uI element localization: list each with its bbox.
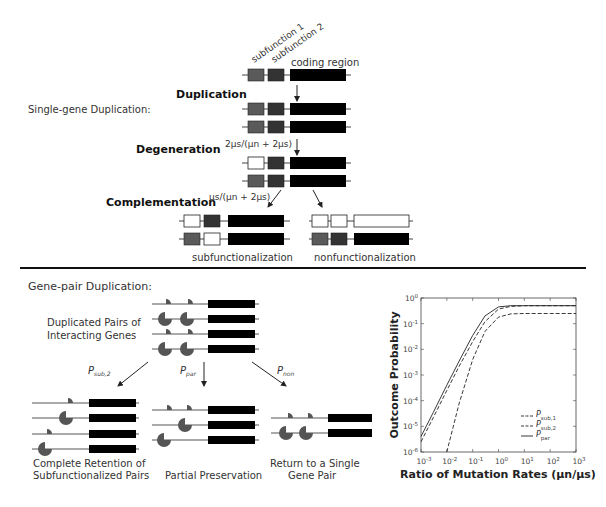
p-non-label: Pnon [277, 365, 295, 377]
tick-label: 102 [547, 456, 560, 466]
figure: Single-gene Duplication: subfunction 1 s… [0, 0, 606, 507]
large-protein-icon [59, 411, 73, 425]
tick-label: 10-2 [403, 344, 418, 354]
y-axis-title: Outcome Probability [388, 311, 401, 438]
subfunction-1-box [248, 69, 264, 81]
p-sub2-label: Psub,2 [88, 365, 111, 377]
small-protein-icon [187, 405, 192, 410]
coding-bar [89, 414, 136, 422]
tick-label: 100 [405, 293, 419, 303]
large-protein-icon [180, 312, 194, 326]
nonfunctionalization-label: nonfunctionalization [314, 252, 416, 263]
complementation-step-label: Complementation [106, 196, 216, 209]
small-protein-icon [188, 329, 193, 334]
source-label-line1: Duplicated Pairs of [47, 317, 141, 328]
large-protein-icon [158, 342, 172, 356]
gene-pair-section: Gene-pair Duplication: Duplicated Pairs … [28, 280, 372, 481]
single-pair-label-line1: Return to a Single [270, 458, 360, 469]
tick-label: 10-1 [403, 319, 418, 329]
tick-label: 10-3 [416, 456, 432, 466]
complete-retention-genes [32, 398, 139, 456]
coding-box [290, 69, 346, 81]
coding-bar [208, 315, 255, 323]
coding-bar [328, 429, 372, 437]
arrow-icon [313, 190, 322, 207]
complete-retention-label-line2: Subfunctionalized Pairs [33, 470, 149, 481]
small-protein-icon [308, 413, 313, 418]
source-label-line2: Interacting Genes [47, 330, 136, 341]
tick-label: 10-4 [403, 396, 419, 406]
tick-label: 10-5 [403, 421, 419, 431]
partial-preservation-genes [152, 405, 259, 447]
small-protein-icon [68, 398, 73, 403]
large-protein-icon [299, 426, 313, 440]
p-par-label: Ppar [180, 365, 197, 378]
large-protein-icon [279, 426, 293, 440]
single-gene-title: Single-gene Duplication: [28, 104, 151, 115]
coding-bar [208, 300, 255, 308]
outcome-probability-chart: 10-310-210-1100101102103 10010-110-210-3… [388, 293, 596, 481]
coding-bar [89, 430, 136, 438]
tick-label: 10-1 [468, 456, 483, 466]
large-protein-icon [38, 442, 52, 456]
small-protein-icon [166, 329, 171, 334]
small-protein-icon [166, 299, 171, 304]
coding-region-label: coding region [291, 57, 359, 68]
large-protein-icon [158, 312, 172, 326]
gene-degenerated-a [242, 157, 351, 169]
tick-label: 10-3 [403, 370, 419, 380]
coding-bar [89, 445, 136, 453]
degeneration-step-label: Degeneration [136, 143, 220, 156]
tick-label: 10-6 [403, 447, 419, 457]
single-gene-pair-genes [271, 413, 372, 440]
small-protein-icon [47, 429, 52, 434]
tick-label: 10-2 [442, 456, 457, 466]
single-gene-section: Single-gene Duplication: subfunction 1 s… [28, 21, 416, 263]
complete-retention-label-line1: Complete Retention of [33, 458, 146, 469]
gene-copy-b [242, 121, 351, 133]
small-protein-icon [188, 299, 193, 304]
coding-bar [208, 345, 255, 353]
subfunction-2-box [268, 69, 284, 81]
small-protein-icon [288, 413, 293, 418]
tick-label: 101 [521, 456, 534, 466]
source-gene-pairs [152, 299, 259, 356]
coding-bar [208, 421, 255, 429]
tick-label: 103 [572, 456, 586, 466]
partial-preservation-label: Partial Preservation [165, 470, 262, 481]
large-protein-icon [178, 418, 192, 432]
complementation-rate: μs/(μn + 2μs) [209, 192, 270, 202]
tick-label: 100 [495, 456, 509, 466]
coding-bar [328, 414, 372, 422]
nonfunctionalization-genes [309, 215, 413, 245]
small-protein-icon [167, 405, 172, 410]
coding-bar [208, 436, 255, 444]
large-protein-icon [157, 433, 171, 447]
degeneration-rate: 2μs/(μn + 2μs) [225, 139, 292, 149]
coding-bar [208, 406, 255, 414]
subfunctionalization-label: subfunctionalization [192, 252, 293, 263]
gene-original [242, 69, 351, 81]
duplication-step-label: Duplication [176, 88, 247, 101]
gene-copy-a [242, 103, 351, 115]
large-protein-icon [180, 342, 194, 356]
gene-degenerated-b [242, 175, 351, 187]
coding-bar [89, 399, 136, 407]
coding-bar [208, 330, 255, 338]
single-pair-label-line2: Gene Pair [288, 470, 337, 481]
x-axis-title: Ratio of Mutation Rates (μn/μs) [400, 468, 596, 481]
subfunctionalization-genes [179, 215, 290, 245]
arrow-sub2-icon [118, 362, 148, 386]
gene-pair-title: Gene-pair Duplication: [28, 280, 152, 293]
